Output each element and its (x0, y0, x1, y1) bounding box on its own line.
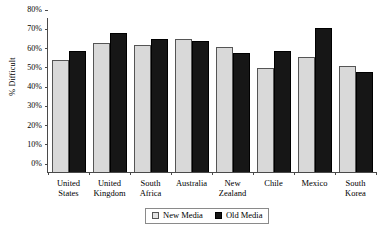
bar-group-bars (294, 18, 335, 172)
bar-group-bars (89, 18, 130, 172)
x-axis-category-label-line: Kingdom (89, 188, 130, 198)
x-axis-tick-mark (89, 172, 90, 175)
x-axis-category-label: Mexico (294, 178, 335, 188)
bar-old-media[interactable] (315, 28, 332, 172)
chart-legend: New MediaOld Media (145, 208, 269, 224)
bar-group: UnitedStates (48, 18, 89, 172)
x-axis-category-label-line: Australia (171, 178, 212, 188)
y-axis-title: % Difficult (8, 37, 17, 117)
bar-group-bars (253, 18, 294, 172)
bar-new-media[interactable] (339, 66, 356, 172)
legend-item-old-media[interactable]: Old Media (215, 211, 263, 220)
x-axis-tick-mark (376, 172, 377, 175)
x-axis-category-label: NewZealand (212, 178, 253, 198)
bar-new-media[interactable] (298, 57, 315, 173)
y-axis-tick-label: 10% (27, 141, 45, 149)
bar-new-media[interactable] (134, 45, 151, 172)
y-axis-tick: 20% (27, 122, 48, 130)
bar-old-media[interactable] (110, 33, 127, 172)
x-axis-category-label-line: South (130, 178, 171, 188)
bar-new-media[interactable] (257, 68, 274, 172)
bar-group-bars (212, 18, 253, 172)
x-axis-category-label-line: Mexico (294, 178, 335, 188)
x-axis-category-label-line: States (48, 188, 89, 198)
y-axis-tick-label: 60% (27, 45, 45, 53)
x-axis-category-label-line: United (89, 178, 130, 188)
y-axis-tick-label: 50% (27, 64, 45, 72)
bar-group-bars (171, 18, 212, 172)
y-axis-tick: 40% (27, 83, 48, 91)
bar-new-media[interactable] (216, 47, 233, 172)
bar-group: UnitedKingdom (89, 18, 130, 172)
y-axis-tick-label: 30% (27, 102, 45, 110)
y-axis-tick: 10% (27, 141, 48, 149)
legend-item-label: Old Media (226, 211, 263, 220)
x-axis-category-label: SouthAfrica (130, 178, 171, 198)
legend-item-new-media[interactable]: New Media (152, 211, 203, 220)
x-axis-category-label-line: Korea (335, 188, 376, 198)
bar-group: SouthAfrica (130, 18, 171, 172)
bar-group-bars (335, 18, 376, 172)
legend-item-label: New Media (163, 211, 203, 220)
bar-old-media[interactable] (356, 72, 373, 172)
x-axis-category-label-line: South (335, 178, 376, 188)
bar-old-media[interactable] (233, 53, 250, 172)
bar-new-media[interactable] (93, 43, 110, 172)
bar-chart: % Difficult 80%70%60%50%40%30%20%10%0%Un… (0, 0, 382, 238)
x-axis-category-label-line: United (48, 178, 89, 188)
bar-old-media[interactable] (151, 39, 168, 172)
y-axis-tick-label: 80% (27, 6, 45, 14)
y-axis-tick: 30% (27, 102, 48, 110)
x-axis-category-label: Chile (253, 178, 294, 188)
x-axis-tick-mark (335, 172, 336, 175)
x-axis-tick-mark (48, 172, 49, 175)
x-axis-tick-mark (212, 172, 213, 175)
bar-group: Chile (253, 18, 294, 172)
x-axis-category-label: UnitedStates (48, 178, 89, 198)
x-axis-tick-mark (294, 172, 295, 175)
bar-group-bars (130, 18, 171, 172)
bar-new-media[interactable] (52, 60, 69, 172)
y-axis-tick-label: 0% (31, 160, 45, 168)
bar-old-media[interactable] (192, 41, 209, 172)
y-axis-tick-label: 20% (27, 122, 45, 130)
y-axis-tick: 0% (31, 160, 48, 168)
bar-old-media[interactable] (274, 51, 291, 172)
bar-new-media[interactable] (175, 39, 192, 172)
bar-group: NewZealand (212, 18, 253, 172)
legend-swatch-icon (215, 212, 222, 219)
x-axis-category-label-line: Zealand (212, 188, 253, 198)
x-axis-category-label: UnitedKingdom (89, 178, 130, 198)
y-axis-tick-label: 70% (27, 25, 45, 33)
y-axis-tick-mark (45, 10, 48, 11)
x-axis-category-label-line: New (212, 178, 253, 188)
x-axis-tick-mark (171, 172, 172, 175)
plot-area: 80%70%60%50%40%30%20%10%0%UnitedStatesUn… (47, 18, 376, 173)
y-axis-tick: 50% (27, 64, 48, 72)
bar-old-media[interactable] (69, 51, 86, 172)
legend-swatch-icon (152, 212, 159, 219)
bar-group: Mexico (294, 18, 335, 172)
x-axis-category-label: SouthKorea (335, 178, 376, 198)
y-axis-tick: 80% (27, 6, 48, 14)
x-axis-category-label-line: Africa (130, 188, 171, 198)
x-axis-tick-mark (253, 172, 254, 175)
bar-group: SouthKorea (335, 18, 376, 172)
y-axis-tick: 60% (27, 45, 48, 53)
x-axis-category-label: Australia (171, 178, 212, 188)
x-axis-tick-mark (130, 172, 131, 175)
bar-group: Australia (171, 18, 212, 172)
y-axis-tick: 70% (27, 25, 48, 33)
x-axis-category-label-line: Chile (253, 178, 294, 188)
y-axis-tick-label: 40% (27, 83, 45, 91)
bar-group-bars (48, 18, 89, 172)
